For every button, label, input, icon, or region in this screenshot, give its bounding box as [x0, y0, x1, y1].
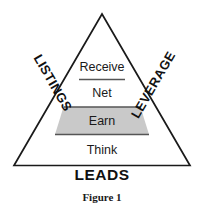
figure-caption: Figure 1: [82, 191, 121, 203]
pyramid-side-label-left: LISTINGS: [31, 52, 76, 114]
figure-container: Receive Net Earn Think LISTINGS LEVERAGE…: [0, 0, 205, 212]
pyramid-tier-label-think: Think: [87, 143, 118, 157]
pyramid-tier-label-net: Net: [92, 86, 112, 100]
pyramid-side-label-right: LEVERAGE: [128, 49, 178, 121]
pyramid-tier-label-earn: Earn: [89, 114, 115, 128]
pyramid-base-label: LEADS: [74, 166, 129, 183]
pyramid-tier-label-receive: Receive: [79, 60, 124, 74]
pyramid-diagram: Receive Net Earn Think LISTINGS LEVERAGE…: [0, 0, 205, 212]
